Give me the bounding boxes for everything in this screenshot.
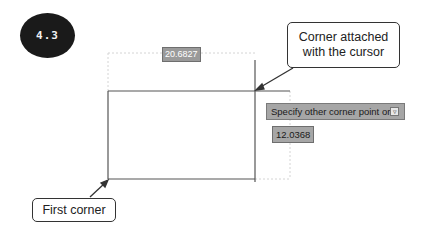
- callout-text: First corner: [42, 203, 105, 217]
- cursor-corner-callout: Corner attached with the cursor: [287, 22, 400, 68]
- width-dimension-label: 20.6827: [162, 47, 201, 62]
- dimension-input-field[interactable]: 12.0368: [272, 126, 314, 143]
- first-corner-callout: First corner: [32, 198, 116, 222]
- callout-text-line2: with the cursor: [288, 45, 399, 60]
- command-prompt-tooltip: Specify other corner point or ▿: [266, 103, 405, 120]
- cursor-callout-arrow-icon: [256, 68, 293, 90]
- down-arrow-icon[interactable]: ▿: [390, 107, 399, 116]
- callout-text-line1: Corner attached: [288, 30, 399, 45]
- first-corner-arrow-icon: [90, 180, 108, 197]
- command-prompt-text: Specify other corner point or: [271, 106, 390, 117]
- dimension-lines: [108, 53, 290, 179]
- rectangle-preview: [108, 60, 290, 182]
